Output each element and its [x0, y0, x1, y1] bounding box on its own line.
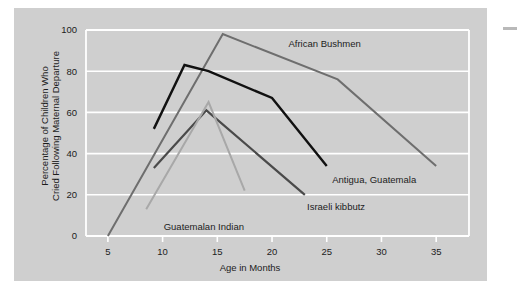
- series-label-antigua-guatemala: Antigua, Guatemala: [332, 174, 417, 185]
- ytick-label-100: 100: [61, 24, 77, 35]
- xtick-label-5: 5: [105, 246, 110, 257]
- series-label-guatemalan-indian: Guatemalan Indian: [164, 221, 244, 232]
- series-line-african-bushmen: [108, 34, 436, 236]
- xtick-label-35: 35: [431, 246, 442, 257]
- series-annotations: African BushmenAntigua, GuatemalaIsraeli…: [164, 38, 417, 232]
- y-tick-labels: 020406080100: [61, 24, 77, 241]
- xtick-label-30: 30: [376, 246, 387, 257]
- line-chart-svg: 020406080100 5101520253035 African Bushm…: [14, 8, 487, 281]
- series-label-israeli-kibbutz: Israeli kibbutz: [307, 201, 365, 212]
- xtick-label-15: 15: [212, 246, 223, 257]
- y-axis-title-line2: Cried Following Maternal Departure: [50, 51, 61, 201]
- x-axis-title: Age in Months: [220, 262, 281, 273]
- x-tick-labels: 5101520253035: [105, 246, 441, 257]
- ytick-label-40: 40: [66, 148, 77, 159]
- xtick-label-25: 25: [321, 246, 332, 257]
- corner-crop-mark: [503, 27, 517, 30]
- ytick-label-20: 20: [66, 189, 77, 200]
- ytick-label-60: 60: [66, 107, 77, 118]
- ytick-label-80: 80: [66, 66, 77, 77]
- series-line-guatemalan-indian: [146, 102, 244, 209]
- y-axis-title-line1: Percentage of Children Who: [39, 66, 50, 185]
- y-gridlines: [86, 30, 469, 236]
- series-label-african-bushmen: African Bushmen: [288, 38, 360, 49]
- ytick-label-0: 0: [72, 230, 77, 241]
- xtick-label-10: 10: [157, 246, 168, 257]
- figure-canvas: 020406080100 5101520253035 African Bushm…: [0, 0, 525, 295]
- xtick-label-20: 20: [267, 246, 278, 257]
- plot-frame: [86, 30, 469, 236]
- data-series-group: [108, 34, 436, 236]
- chart-panel: 020406080100 5101520253035 African Bushm…: [14, 8, 487, 281]
